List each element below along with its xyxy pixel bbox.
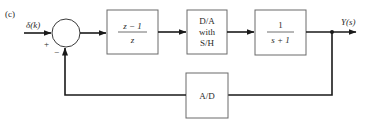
plant-numerator: 1 (278, 20, 283, 30)
controller-denominator: z (130, 35, 135, 45)
controller-numerator: z − 1 (122, 21, 142, 31)
feedback-wire-left (65, 48, 186, 95)
dac-block: D/A with S/H (187, 10, 227, 54)
plus-sign: + (44, 39, 49, 49)
dac-line3: S/H (200, 38, 215, 48)
plant-denominator: s + 1 (271, 35, 290, 45)
input-label: δ(k) (26, 20, 40, 30)
panel-label: (c) (5, 9, 15, 19)
dac-line1: D/A (199, 16, 215, 26)
plant-block: 1 s + 1 (255, 10, 306, 55)
adc-block: A/D (186, 73, 228, 118)
output-label: Y(s) (341, 17, 356, 27)
controller-block: z − 1 z (107, 10, 158, 54)
dac-line2: with (199, 27, 216, 37)
summing-junction (52, 19, 80, 47)
adc-label: A/D (199, 91, 215, 101)
block-diagram: (c) δ(k) + − z − 1 z D/A with S/H 1 s + … (0, 0, 365, 125)
minus-sign: − (54, 47, 59, 57)
